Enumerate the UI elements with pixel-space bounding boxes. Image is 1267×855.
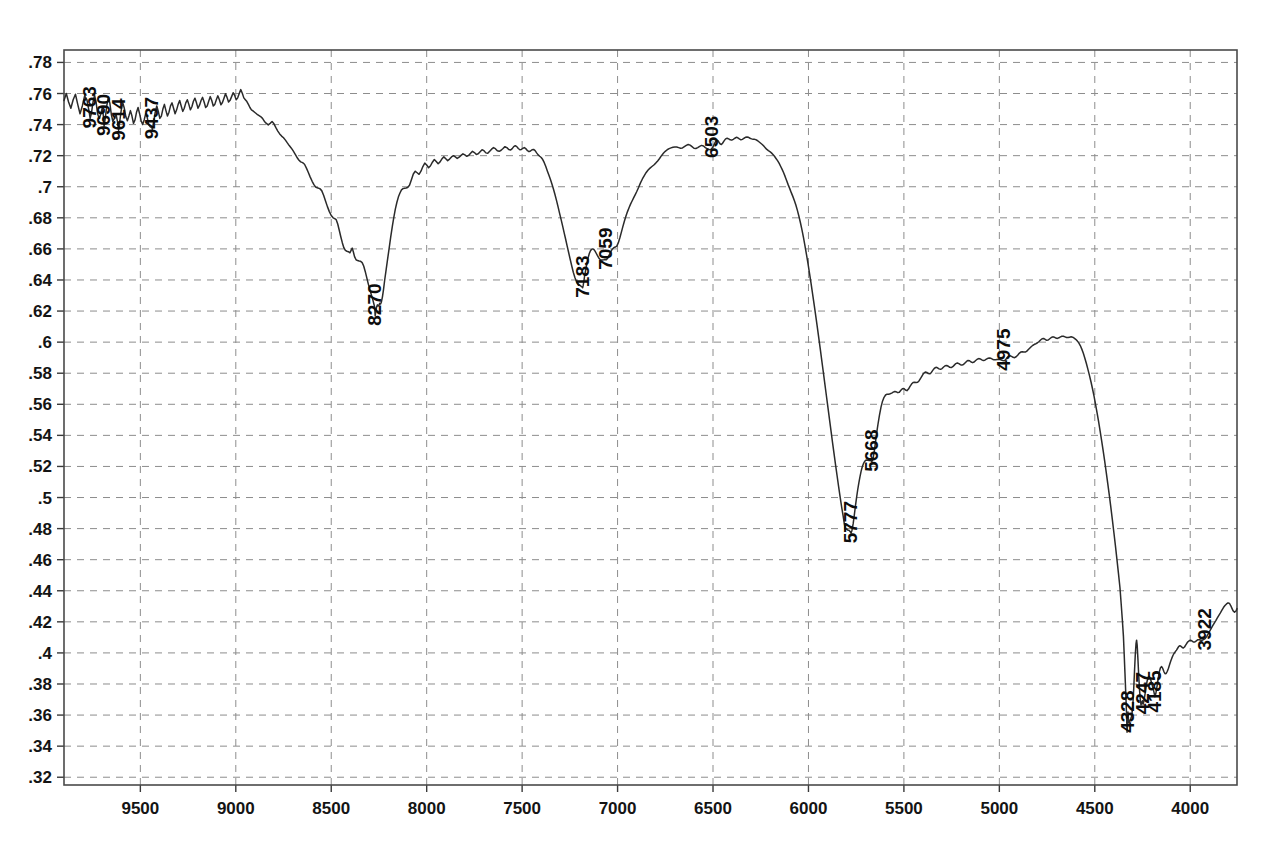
- x-axis-tick-labels: 9500900085008000750070006500600055005000…: [121, 799, 1209, 818]
- y-axis-tick-label: .56: [28, 395, 52, 414]
- peak-label: 8270: [364, 283, 385, 325]
- y-axis-tick-label: .62: [28, 302, 52, 321]
- y-axis-tick-label: .5: [38, 489, 52, 508]
- spectrum-chart: .32.34.36.38.4.42.44.46.48.5.52.54.56.58…: [0, 0, 1267, 855]
- peak-label: 4975: [993, 328, 1014, 371]
- x-axis-tick-label: 6500: [694, 799, 732, 818]
- y-axis-tick-label: .48: [28, 520, 52, 539]
- peak-label: 5668: [861, 430, 882, 472]
- y-axis-tick-label: .68: [28, 209, 52, 228]
- axis-tick-labels: .32.34.36.38.4.42.44.46.48.5.52.54.56.58…: [28, 53, 52, 787]
- x-axis-tick-label: 7500: [503, 799, 541, 818]
- plot-frame: [64, 50, 1237, 785]
- spectrum-trace: [64, 90, 1237, 733]
- peak-label: 9614: [108, 98, 129, 141]
- spectrum-plot-svg: .32.34.36.38.4.42.44.46.48.5.52.54.56.58…: [0, 0, 1267, 855]
- y-axis-tick-label: .78: [28, 53, 52, 72]
- peak-label-text: 8270: [364, 283, 385, 325]
- y-axis-tick-label: .32: [28, 768, 52, 787]
- peak-label: 6503: [701, 116, 722, 158]
- y-axis-tick-label: .76: [28, 85, 52, 104]
- peak-label-text: 9614: [108, 98, 129, 141]
- peak-label: 7059: [595, 228, 616, 270]
- data-trace-layer: [64, 90, 1237, 733]
- peak-annotation-layer: 9763969096149437827071837059650357775668…: [79, 86, 1215, 733]
- peak-label-text: 3922: [1194, 608, 1215, 650]
- x-axis-tick-label: 4500: [1076, 799, 1114, 818]
- y-axis-tick-label: .6: [38, 333, 52, 352]
- y-axis-tick-label: .46: [28, 551, 52, 570]
- x-axis-tick-label: 5500: [885, 799, 923, 818]
- x-axis-tick-label: 7000: [599, 799, 637, 818]
- y-axis-tick-label: .66: [28, 240, 52, 259]
- y-axis-tick-label: .4: [38, 644, 53, 663]
- y-axis-tick-label: .72: [28, 147, 52, 166]
- x-axis-tick-label: 8500: [312, 799, 350, 818]
- peak-label: 5777: [840, 501, 861, 543]
- y-axis-tick-label: .34: [28, 737, 52, 756]
- tick-layer: [57, 62, 1190, 792]
- peak-label-text: 7183: [572, 255, 593, 297]
- peak-label: 9437: [141, 97, 162, 139]
- y-axis-tick-label: .52: [28, 457, 52, 476]
- x-axis-tick-label: 9000: [217, 799, 255, 818]
- peak-label-text: 6503: [701, 116, 722, 158]
- grid-layer: [64, 50, 1237, 785]
- x-axis-tick-label: 5000: [980, 799, 1018, 818]
- x-axis-tick-label: 9500: [121, 799, 159, 818]
- x-axis-tick-label: 4000: [1171, 799, 1209, 818]
- peak-label-text: 4185: [1144, 670, 1165, 713]
- x-axis-tick-label: 8000: [408, 799, 446, 818]
- y-axis-tick-label: .7: [38, 178, 52, 197]
- peak-label: 3922: [1194, 608, 1215, 650]
- y-axis-tick-label: .64: [28, 271, 52, 290]
- peak-label-text: 5777: [840, 501, 861, 543]
- y-axis-tick-label: .42: [28, 613, 52, 632]
- peak-label-text: 9437: [141, 97, 162, 139]
- y-axis-tick-label: .58: [28, 364, 52, 383]
- y-axis-tick-label: .36: [28, 706, 52, 725]
- peak-label: 4185: [1144, 670, 1165, 713]
- peak-label: 7183: [572, 255, 593, 297]
- peak-label-text: 5668: [861, 430, 882, 472]
- y-axis-tick-label: .54: [28, 426, 52, 445]
- y-axis-tick-label: .38: [28, 675, 52, 694]
- peak-label-text: 7059: [595, 228, 616, 270]
- y-axis-tick-label: .74: [28, 116, 52, 135]
- peak-label-text: 4975: [993, 328, 1014, 371]
- y-axis-tick-label: .44: [28, 582, 52, 601]
- x-axis-tick-label: 6000: [790, 799, 828, 818]
